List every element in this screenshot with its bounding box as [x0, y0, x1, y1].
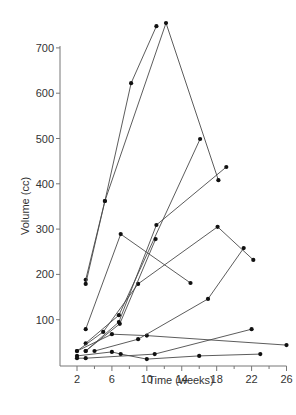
- data-point-marker: [154, 223, 158, 227]
- data-point-marker: [119, 232, 123, 236]
- data-point-marker: [198, 137, 202, 141]
- data-point-marker: [164, 21, 168, 25]
- series-group: [75, 21, 289, 361]
- data-point-marker: [284, 343, 288, 347]
- data-point-marker: [84, 282, 88, 286]
- data-point-marker: [103, 199, 107, 203]
- series-line: [77, 334, 287, 351]
- data-point-marker: [188, 281, 192, 285]
- series-line: [95, 248, 244, 351]
- data-point-marker: [92, 349, 96, 353]
- y-tick-label: 400: [36, 178, 54, 190]
- data-point-marker: [258, 352, 262, 356]
- y-tick-label: 300: [36, 223, 54, 235]
- data-point-marker: [242, 246, 246, 250]
- x-tick-label: 2: [74, 373, 80, 385]
- x-tick-label: 22: [245, 373, 257, 385]
- series-line: [77, 352, 260, 359]
- y-tick-label: 500: [36, 133, 54, 145]
- data-point-marker: [145, 357, 149, 361]
- y-tick-label: 100: [36, 314, 54, 326]
- data-point-marker: [250, 327, 254, 331]
- data-point-marker: [206, 297, 210, 301]
- data-point-marker: [84, 356, 88, 360]
- data-point-marker: [110, 332, 114, 336]
- data-point-marker: [216, 178, 220, 182]
- series-8: [75, 332, 289, 353]
- data-point-marker: [75, 349, 79, 353]
- y-axis-label: Volume (cc): [19, 177, 31, 235]
- data-point-marker: [101, 330, 105, 334]
- x-tick-label: 26: [280, 373, 292, 385]
- data-point-marker: [129, 81, 133, 85]
- data-point-marker: [251, 258, 255, 262]
- series-line: [86, 139, 200, 343]
- data-point-marker: [75, 356, 79, 360]
- data-point-marker: [84, 349, 88, 353]
- data-point-marker: [119, 352, 123, 356]
- axes: 100200300400500600700261014182226: [36, 42, 293, 385]
- data-point-marker: [224, 165, 228, 169]
- y-tick-label: 200: [36, 268, 54, 280]
- data-point-marker: [154, 24, 158, 28]
- y-tick-label: 600: [36, 87, 54, 99]
- data-point-marker: [118, 322, 122, 326]
- x-tick-label: 6: [109, 373, 115, 385]
- series-line: [86, 23, 219, 284]
- data-point-marker: [197, 354, 201, 358]
- data-point-marker: [110, 350, 114, 354]
- data-point-marker: [216, 225, 220, 229]
- data-point-marker: [136, 337, 140, 341]
- y-tick-label: 700: [36, 42, 54, 54]
- data-point-marker: [117, 313, 121, 317]
- series-10: [75, 350, 263, 361]
- data-point-marker: [153, 352, 157, 356]
- series-2: [84, 21, 221, 286]
- line-chart: 100200300400500600700261014182226 Time (…: [0, 0, 296, 415]
- data-point-marker: [154, 237, 158, 241]
- series-5: [75, 225, 256, 353]
- data-point-marker: [84, 327, 88, 331]
- series-4: [84, 137, 203, 346]
- x-axis-label: Time (weeks): [148, 374, 214, 386]
